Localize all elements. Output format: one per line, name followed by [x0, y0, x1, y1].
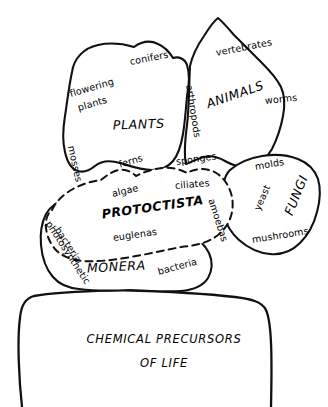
example-label-conifers: conifers — [129, 49, 169, 67]
example-label-vertebrates: vertebrates — [215, 36, 273, 58]
kingdom-label-fungi: FUNGI — [281, 173, 311, 218]
example-label-ciliates: ciliates — [174, 177, 209, 191]
example-label-amoebas: amoebas — [206, 197, 230, 243]
example-label-sponges: sponges — [175, 150, 217, 167]
example-label-ferns: ferns — [117, 152, 144, 170]
kingdom-label-monera: MONERA — [87, 257, 146, 275]
example-label-arthropods: arthropods — [184, 84, 203, 138]
base-label-line2: OF LIFE — [140, 356, 188, 370]
example-label-algae: algae — [111, 182, 140, 199]
example-label-mosses: mosses — [66, 145, 84, 183]
example-label-euglenas: euglenas — [112, 226, 158, 243]
example-label-flowering-plants-line2: plants — [76, 94, 108, 113]
example-label-bacteria: bacteria — [156, 256, 198, 277]
example-label-molds: molds — [254, 156, 285, 172]
label-layer: PLANTS conifers flowering plants mosses … — [0, 0, 328, 407]
base-label-line1: CHEMICAL PRECURSORS — [87, 332, 242, 346]
example-label-flowering-plants-line1: flowering — [68, 76, 115, 99]
kingdom-label-animals: ANIMALS — [203, 77, 266, 111]
example-label-yeast: yeast — [252, 183, 273, 212]
kingdom-label-plants: PLANTS — [113, 116, 165, 133]
five-kingdoms-diagram: PLANTS conifers flowering plants mosses … — [0, 0, 328, 407]
example-label-mushrooms: mushrooms — [251, 225, 309, 245]
example-label-worms: worms — [264, 92, 297, 106]
